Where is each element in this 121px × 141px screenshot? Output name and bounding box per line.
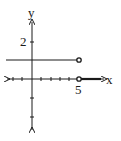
x-axis-label: x xyxy=(106,72,113,87)
open-circle-lower xyxy=(77,77,81,81)
piecewise-graph: y x 2 5 xyxy=(0,0,121,141)
open-circle-upper xyxy=(77,58,81,62)
x-tick-label-5: 5 xyxy=(75,82,82,97)
y-tick-label-2: 2 xyxy=(20,34,27,49)
y-axis-label: y xyxy=(28,5,35,20)
